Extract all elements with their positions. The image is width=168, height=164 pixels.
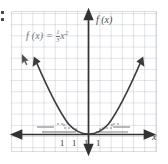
right-branch-arrow-icon — [136, 56, 144, 66]
y-axis — [85, 10, 93, 154]
left-branch-arrow-icon — [33, 56, 41, 66]
x-axis-label: x — [152, 132, 156, 142]
dashed-step-right — [100, 124, 119, 132]
x-tick-label-0: 1 — [60, 138, 64, 148]
equation-exponent: 2 — [65, 29, 68, 36]
equation-equals: = — [46, 30, 53, 41]
y-axis-label: f (x) — [96, 15, 112, 25]
x-tick-label-1: 1 — [72, 138, 76, 148]
mouse-pointer-icon — [21, 53, 30, 66]
left-arrow-icon — [12, 131, 22, 139]
edge-colon-marks — [1, 11, 4, 22]
function-equation: f (x) = 1 3 x2 — [26, 29, 68, 43]
x-tick-label-3: 1 — [96, 138, 100, 148]
graph-figure: f (x) = 1 3 x2 f (x) x 1111 — [0, 0, 168, 164]
x-tick-label-2: 1 — [84, 138, 88, 148]
up-arrow-icon — [85, 10, 93, 20]
x-axis — [12, 131, 154, 139]
equation-lhs: f (x) — [26, 30, 43, 41]
